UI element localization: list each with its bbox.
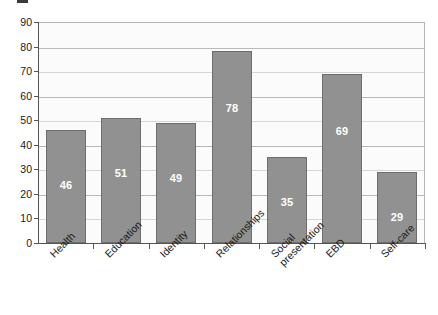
- bar[interactable]: [322, 74, 362, 243]
- y-axis-tick: [34, 194, 38, 195]
- y-axis-line: [38, 22, 39, 244]
- y-axis-tick-label: 80: [6, 42, 32, 52]
- y-axis-tick: [34, 96, 38, 97]
- y-axis-tick-label: 20: [6, 189, 32, 199]
- x-axis-tick: [425, 244, 426, 249]
- bar[interactable]: [212, 51, 252, 243]
- y-axis-labels: 9080706050403020100: [0, 0, 32, 315]
- x-axis-tick: [259, 244, 260, 249]
- gridline: [38, 48, 424, 49]
- x-axis-tick: [149, 244, 150, 249]
- y-axis-tick: [34, 243, 38, 244]
- x-axis-tick: [204, 244, 205, 249]
- bar-value-label: 69: [322, 126, 362, 137]
- bar-value-label: 78: [212, 103, 252, 114]
- y-axis-tick-label: 10: [6, 213, 32, 223]
- y-axis-tick: [34, 47, 38, 48]
- y-axis-tick: [34, 218, 38, 219]
- x-axis-tick: [314, 244, 315, 249]
- x-axis-tick: [93, 244, 94, 249]
- y-axis-tick: [34, 145, 38, 146]
- y-axis-tick: [34, 169, 38, 170]
- y-axis-tick-label: 40: [6, 140, 32, 150]
- bar-value-label: 51: [101, 168, 141, 179]
- y-axis-tick-label: 0: [6, 238, 32, 248]
- y-axis-tick-label: 90: [6, 17, 32, 27]
- bar-chart-figure: 9080706050403020100 46514978356929 Healt…: [0, 0, 438, 315]
- y-axis-tick: [34, 71, 38, 72]
- y-axis-tick-label: 30: [6, 164, 32, 174]
- bar-value-label: 35: [267, 197, 307, 208]
- bar-value-label: 46: [46, 180, 86, 191]
- y-axis-tick-label: 50: [6, 115, 32, 125]
- y-axis-tick: [34, 22, 38, 23]
- y-axis-tick-label: 60: [6, 91, 32, 101]
- y-axis-tick-label: 70: [6, 66, 32, 76]
- y-axis-tick: [34, 120, 38, 121]
- bar-value-label: 49: [156, 173, 196, 184]
- x-axis-tick: [370, 244, 371, 249]
- bar-value-label: 29: [377, 212, 417, 223]
